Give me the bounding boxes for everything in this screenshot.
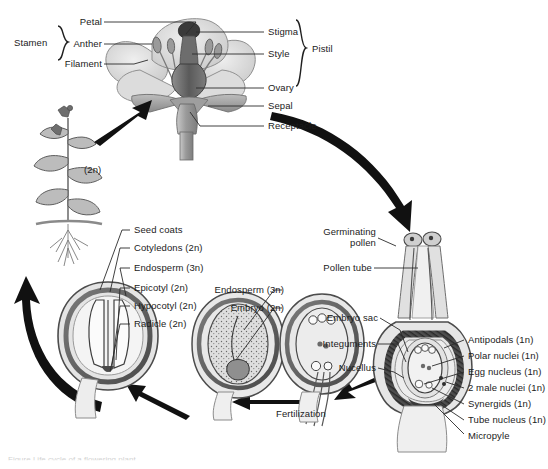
label-antipodals: Antipodals (1n) [468, 334, 533, 345]
label-ovary: Ovary [268, 82, 294, 93]
label-hypocotyl: Hypocotyl (2n) [134, 300, 197, 311]
label-stigma: Stigma [268, 26, 298, 37]
label-polar-nuclei: Polar nuclei (1n) [468, 350, 539, 361]
label-egg-nucleus: Egg nucleus (1n) [468, 366, 541, 377]
label-nucellus: Nucellus [304, 362, 376, 373]
label-integuments: Integuments [292, 338, 376, 349]
label-radicle: Radicle (2n) [134, 318, 186, 329]
label-two-male-nuclei: 2 male nuclei (1n) [468, 382, 545, 393]
label-synergids: Synergids (1n) [468, 398, 531, 409]
label-pollen-tube: Pollen tube [292, 262, 372, 273]
bracket-label-pistil: Pistil [312, 43, 333, 54]
diagram-artwork [0, 0, 548, 469]
label-sepal: Sepal [268, 100, 293, 111]
label-endosperm-seed: Endosperm (3n) [134, 262, 204, 273]
label-style: Style [268, 48, 290, 59]
sporophyte-plant-illustration [34, 105, 102, 266]
label-anther: Anther [4, 38, 102, 49]
label-cotyledons: Cotyledons (2n) [134, 242, 203, 253]
arrow-plant-to-flower [94, 100, 152, 146]
flower-illustration [106, 19, 255, 160]
label-epicotyl: Epicotyl (2n) [134, 282, 188, 293]
label-micropyle: Micropyle [468, 430, 510, 441]
label-receptacle: Receptacle [268, 120, 317, 131]
pollination-illustration [374, 232, 472, 452]
figure-canvas: Stamen Pistil Petal Anther Filament Stig… [0, 0, 548, 469]
label-tube-nucleus: Tube nucleus (1n) [468, 414, 546, 425]
label-germinating-pollen-line2: pollen [292, 237, 376, 248]
label-endosperm-3n: Endosperm (3n) [196, 284, 284, 295]
arrow-embryo-to-seed [126, 384, 190, 420]
label-embryo-sac: Embryo sac [296, 312, 378, 323]
label-germinating-pollen-line1: Germinating [292, 226, 376, 237]
label-petal: Petal [4, 16, 102, 27]
label-filament: Filament [4, 58, 102, 69]
label-embryo-2n: Embryo (2n) [196, 302, 284, 313]
label-sporophyte-ploidy: (2n) [84, 164, 101, 175]
label-seed-coats: Seed coats [134, 224, 183, 235]
label-fertilization: Fertilization [276, 408, 326, 419]
